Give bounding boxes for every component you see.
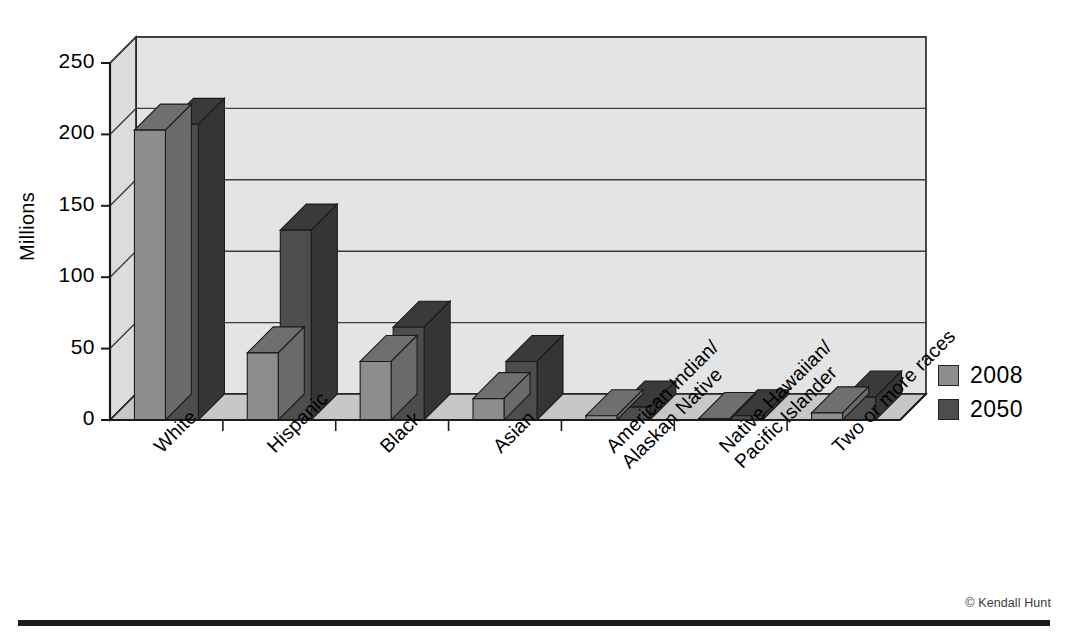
legend-label: 2050 bbox=[970, 396, 1023, 423]
legend-item-2008[interactable]: 2008 bbox=[938, 358, 1023, 392]
footer-divider bbox=[18, 620, 1050, 626]
legend-swatch-icon bbox=[938, 399, 959, 420]
chart-side-wall bbox=[110, 37, 136, 420]
y-axis-tick-label: 200 bbox=[25, 120, 95, 144]
legend-label: 2008 bbox=[970, 362, 1023, 389]
bar-2008-0 bbox=[134, 104, 191, 420]
chart-page: Millions 050100150200250 WhiteHispanicBl… bbox=[0, 0, 1065, 638]
y-axis-tick-label: 0 bbox=[25, 406, 95, 430]
chart-canvas: Millions 050100150200250 WhiteHispanicBl… bbox=[0, 0, 1065, 638]
y-axis-tick-label: 100 bbox=[25, 263, 95, 287]
y-axis-tick-label: 250 bbox=[25, 49, 95, 73]
y-axis-tick-label: 150 bbox=[25, 192, 95, 216]
copyright-credit: © Kendall Hunt bbox=[965, 596, 1051, 610]
chart-legend: 2008 2050 bbox=[938, 358, 1023, 426]
bar-chart-3d bbox=[0, 0, 1065, 638]
legend-item-2050[interactable]: 2050 bbox=[938, 392, 1023, 426]
y-axis-tick-label: 50 bbox=[25, 335, 95, 359]
legend-swatch-icon bbox=[938, 365, 959, 386]
